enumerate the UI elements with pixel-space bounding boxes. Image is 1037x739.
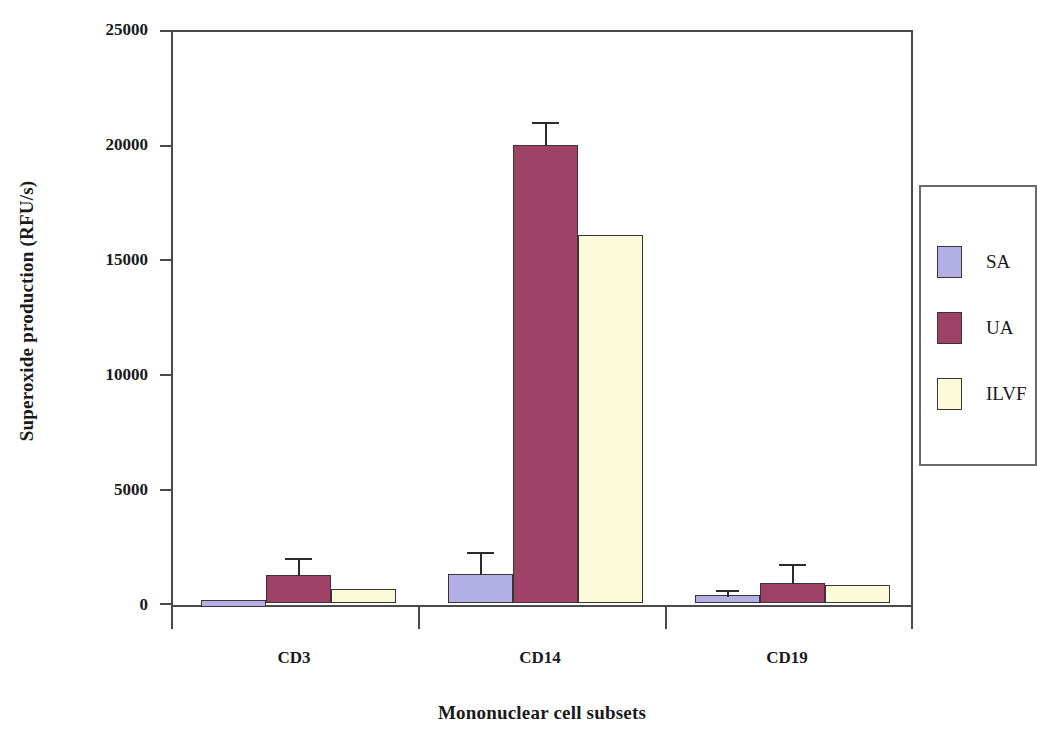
x-category-label-cd14: CD14 [420, 648, 660, 668]
x-separator-right [911, 607, 913, 629]
y-tick-label-5000: 5000 [28, 480, 148, 500]
error-bar-cap-cd14-sa [467, 552, 494, 554]
legend-item-ilvf: ILVF [937, 377, 1026, 411]
error-bar-stem-cd19-ua [792, 564, 794, 584]
error-bar-cap-cd14-ua [532, 122, 559, 124]
legend-item-ua: UA [937, 311, 1013, 345]
y-tick-mark-5000 [160, 489, 171, 491]
plot-area [171, 30, 913, 607]
x-category-label-cd3: CD3 [174, 648, 414, 668]
legend-box: SA UA ILVF [919, 185, 1037, 466]
y-tick-label-15000: 15000 [28, 250, 148, 270]
y-tick-label-25000: 25000 [28, 20, 148, 40]
y-tick-label-20000: 20000 [28, 135, 148, 155]
bar-cd14-sa [448, 574, 513, 603]
legend-swatch-ua-icon [937, 312, 962, 344]
x-separator-2 [665, 607, 667, 629]
x-axis-title: Mononuclear cell subsets [171, 702, 913, 724]
error-bar-stem-cd3-ua [298, 558, 300, 576]
y-tick-mark-20000 [160, 145, 171, 147]
bar-cd19-ua [760, 583, 825, 603]
y-tick-mark-25000 [160, 30, 171, 32]
bar-cd3-ilvf [331, 589, 396, 603]
x-separator-1 [418, 607, 420, 629]
bar-cd3-ua [266, 575, 331, 603]
legend-label-ua: UA [986, 317, 1013, 339]
y-tick-mark-15000 [160, 259, 171, 261]
bar-cd19-ilvf [825, 585, 890, 603]
legend-swatch-ilvf-icon [937, 378, 962, 410]
error-bar-stem-cd14-ua [545, 122, 547, 146]
error-bar-cap-cd19-sa [716, 590, 739, 592]
legend-swatch-sa-icon [937, 246, 962, 278]
x-separator-left [171, 607, 173, 629]
y-tick-label-10000: 10000 [28, 365, 148, 385]
error-bar-cap-cd3-ua [285, 558, 312, 560]
error-bar-cap-cd19-ua [779, 564, 806, 566]
y-tick-mark-10000 [160, 374, 171, 376]
legend-item-sa: SA [937, 245, 1010, 279]
bar-cd14-ilvf [578, 235, 643, 603]
legend-label-sa: SA [986, 251, 1010, 273]
legend-label-ilvf: ILVF [986, 383, 1026, 405]
x-category-label-cd19: CD19 [667, 648, 907, 668]
bar-cd3-sa [201, 600, 266, 607]
bar-cd14-ua [513, 145, 578, 603]
y-tick-mark-0 [160, 603, 171, 605]
error-bar-stem-cd14-sa [480, 552, 482, 575]
y-tick-label-0: 0 [28, 595, 148, 615]
